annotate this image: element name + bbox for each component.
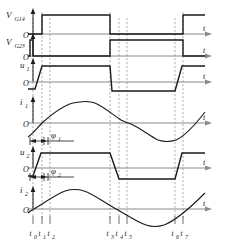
time-marker-t6-name: t [172, 229, 175, 238]
origin-label-vg14: O [23, 31, 29, 40]
origin-label-u2: O [23, 165, 29, 174]
time-marker-labels: t 0 t 1 t 2 t 3 t 4 t 5 t 6 t 7 [30, 229, 190, 240]
time-marker-t4-sub: 4 [120, 234, 123, 240]
time-axis-label-u1: t [203, 72, 206, 81]
phi1-subscript: 1 [58, 136, 61, 142]
trace-sublabel-i2: 2 [25, 191, 28, 197]
time-axis-label-u2: t [203, 158, 206, 167]
trace-sublabel-u2: 2 [27, 153, 30, 159]
trace-sublabel-vg14: G14 [15, 16, 25, 22]
phi2-subscript: 2 [58, 172, 61, 178]
trace-sublabel-u1: 1 [27, 66, 30, 72]
trace-i1: i 1 O t [20, 96, 212, 142]
trace-label-u2: u [20, 147, 25, 157]
waveform-figure: V G14 O t V G23 O t u 1 [0, 0, 241, 243]
timing-diagram-svg: V G14 O t V G23 O t u 1 [0, 0, 241, 243]
trace-vg14: V G14 O t [6, 8, 212, 40]
trace-label-vg23: V [6, 37, 13, 47]
phi1-symbol: φ [51, 130, 56, 140]
time-marker-t4-name: t [116, 229, 119, 238]
time-marker-t7-sub: 7 [185, 234, 189, 240]
time-marker-t0-name: t [30, 229, 33, 238]
time-marker-t2-sub: 2 [52, 234, 55, 240]
trace-label-i1: i [20, 97, 23, 107]
time-marker-t2-name: t [48, 229, 51, 238]
origin-label-i1: O [23, 120, 29, 129]
time-axis-label-i2: t [203, 199, 206, 208]
trace-label-vg14: V [6, 10, 13, 20]
origin-label-i2: O [23, 206, 29, 215]
time-axis-label-i1: t [203, 113, 206, 122]
trace-label-u1: u [20, 60, 25, 70]
time-marker-t6-sub: 6 [176, 234, 179, 240]
trace-sublabel-vg23: G23 [15, 43, 25, 49]
origin-label-u1: O [23, 79, 29, 88]
time-marker-t5-sub: 5 [129, 234, 132, 240]
time-marker-t1-sub: 1 [43, 234, 46, 240]
phi2-symbol: φ [51, 166, 56, 176]
time-marker-t1-name: t [39, 229, 42, 238]
time-marker-t3-sub: 3 [110, 234, 114, 240]
time-marker-t3-name: t [107, 229, 110, 238]
time-marker-t0-sub: 0 [34, 234, 37, 240]
trace-sublabel-i1: 1 [25, 103, 28, 109]
time-axis-label-vg14: t [203, 24, 206, 33]
trace-label-i2: i [20, 185, 23, 195]
trace-vg23: V G23 O t [6, 33, 212, 62]
dashed-guide-lines [33, 12, 183, 218]
time-marker-t5-name: t [125, 229, 128, 238]
time-axis-label-vg23: t [203, 46, 206, 55]
time-marker-t7-name: t [181, 229, 184, 238]
time-marker-ticks [33, 216, 183, 224]
phase-annotation-phi1: φ 1 [30, 130, 74, 145]
